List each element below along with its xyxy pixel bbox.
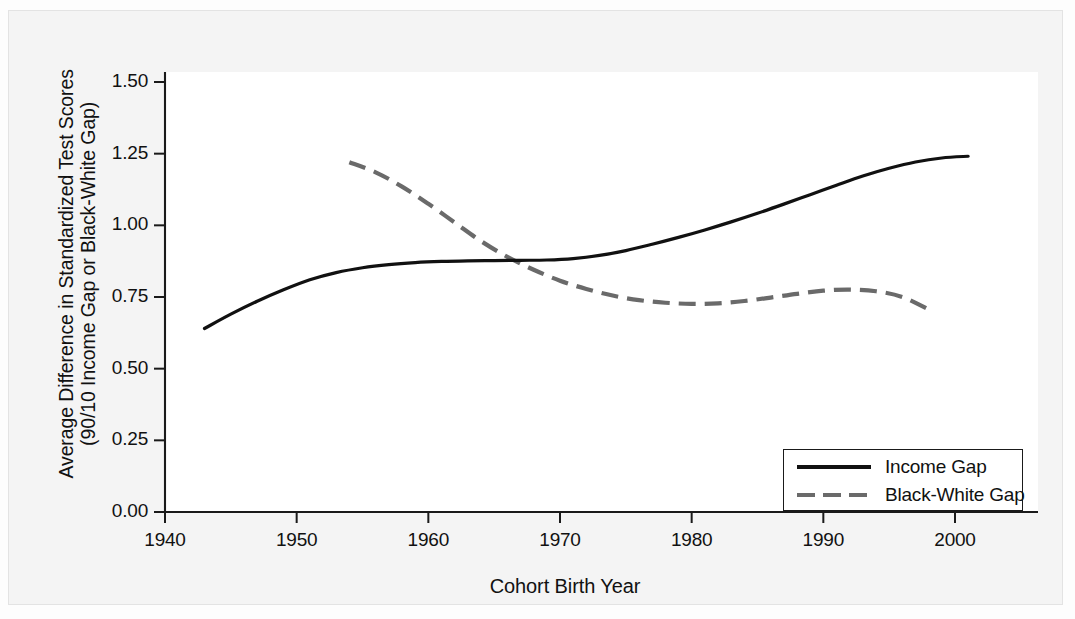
y-tick-label: 0.25 bbox=[82, 428, 148, 450]
x-tick-label: 2000 bbox=[915, 529, 995, 551]
x-tick-label: 1990 bbox=[783, 529, 863, 551]
x-tick-label: 1980 bbox=[652, 529, 732, 551]
legend-item-black-white-gap: Black-White Gap bbox=[784, 481, 1022, 509]
plot-background bbox=[165, 72, 1038, 512]
figure-page: Average Difference in Standardized Test … bbox=[0, 0, 1075, 619]
x-tick-label: 1960 bbox=[388, 529, 468, 551]
x-tick-marks bbox=[165, 512, 955, 523]
chart-legend: Income Gap Black-White Gap bbox=[783, 449, 1023, 511]
y-tick-label: 1.00 bbox=[82, 213, 148, 235]
y-tick-label: 0.50 bbox=[82, 357, 148, 379]
legend-label-income-gap: Income Gap bbox=[885, 456, 987, 478]
x-tick-label: 1970 bbox=[520, 529, 600, 551]
x-tick-label: 1940 bbox=[125, 529, 205, 551]
y-tick-label: 1.50 bbox=[82, 70, 148, 92]
legend-swatch-dashed-icon bbox=[797, 488, 871, 502]
legend-item-income-gap: Income Gap bbox=[784, 453, 1022, 481]
y-tick-label: 1.25 bbox=[82, 142, 148, 164]
y-tick-label: 0.00 bbox=[82, 500, 148, 522]
y-tick-marks bbox=[154, 82, 165, 512]
y-axis-label-line1: Average Difference in Standardized Test … bbox=[56, 34, 78, 514]
chart-plot-area bbox=[0, 0, 1075, 619]
legend-swatch-solid-icon bbox=[797, 460, 871, 474]
x-axis-label: Cohort Birth Year bbox=[175, 575, 955, 598]
y-tick-label: 0.75 bbox=[82, 285, 148, 307]
legend-label-black-white-gap: Black-White Gap bbox=[885, 484, 1025, 506]
x-tick-label: 1950 bbox=[257, 529, 337, 551]
